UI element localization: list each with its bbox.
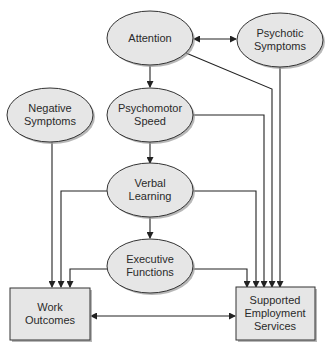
label-text: Attention (128, 32, 171, 44)
edge-psychomotor-ses (193, 115, 264, 287)
edge-attention-ses (186, 53, 272, 287)
label-work-outcomes: Work Outcomes (25, 301, 75, 327)
edge-verbal-work (61, 191, 107, 287)
label-verbal-learning: Verbal Learning (129, 177, 172, 203)
edge-executive-work (70, 269, 107, 287)
label-line: Negative (24, 102, 76, 115)
label-line: Psychomotor (118, 102, 182, 115)
edge-executive-ses (193, 269, 247, 287)
label-line: Verbal (129, 177, 172, 190)
label-line: Symptoms (24, 115, 76, 128)
label-supported-employment-services: Supported Employment Services (244, 294, 305, 333)
label-line: Work (25, 301, 75, 314)
label-line: Functions (126, 266, 174, 279)
label-line: Services (244, 320, 305, 333)
label-attention: Attention (128, 32, 171, 45)
label-line: Speed (118, 115, 182, 128)
label-line: Symptoms (254, 40, 306, 53)
label-line: Executive (126, 253, 174, 266)
label-executive-functions: Executive Functions (126, 253, 174, 279)
label-line: Psychotic (254, 27, 306, 40)
label-line: Outcomes (25, 314, 75, 327)
label-line: Employment (244, 307, 305, 320)
label-psychotic-symptoms: Psychotic Symptoms (254, 27, 306, 53)
label-line: Supported (244, 294, 305, 307)
label-psychomotor-speed: Psychomotor Speed (118, 102, 182, 128)
label-negative-symptoms: Negative Symptoms (24, 102, 76, 128)
label-line: Learning (129, 190, 172, 203)
